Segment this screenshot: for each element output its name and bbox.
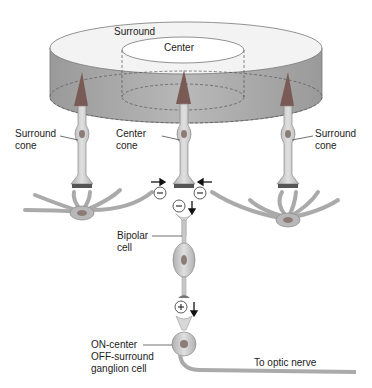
cone-synaptic-terminals [72, 184, 298, 188]
label-ganglion-cell: ON-center OFF-surround ganglion cell [91, 339, 154, 375]
label-optic-nerve: To optic nerve [254, 357, 316, 369]
label-surround-cone-left: Surround cone [15, 128, 56, 152]
bipolar-cell [173, 214, 195, 298]
cone-nuclei [79, 130, 291, 138]
label-surround-cone-right: Surround cone [315, 128, 356, 152]
label-bipolar-cell: Bipolar cell [117, 230, 148, 254]
label-center-cone: Center cone [116, 128, 146, 152]
label-center: Center [164, 42, 194, 54]
label-surround: Surround [114, 26, 155, 38]
diagram-canvas [0, 0, 372, 388]
